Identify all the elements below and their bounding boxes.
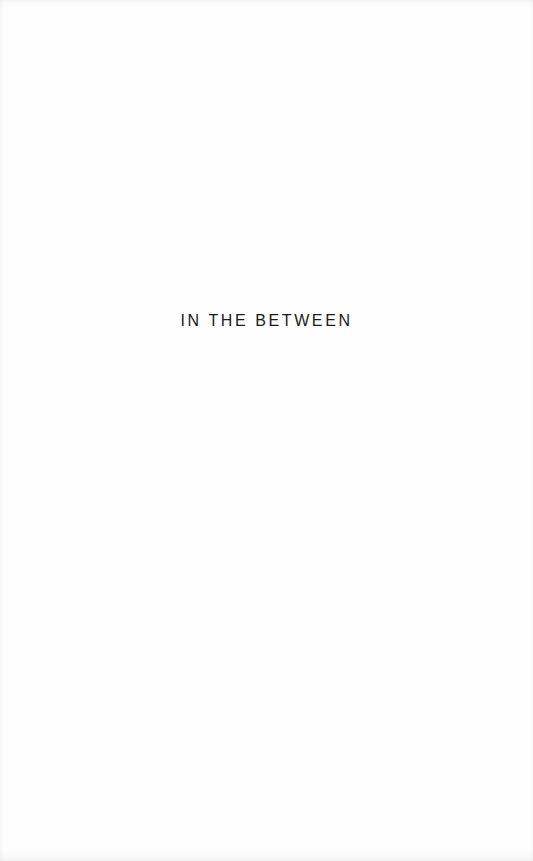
book-page: IN THE BETWEEN	[0, 0, 533, 861]
section-title: IN THE BETWEEN	[0, 311, 533, 331]
page-top-edge	[0, 0, 533, 8]
page-bottom-edge	[0, 849, 533, 861]
